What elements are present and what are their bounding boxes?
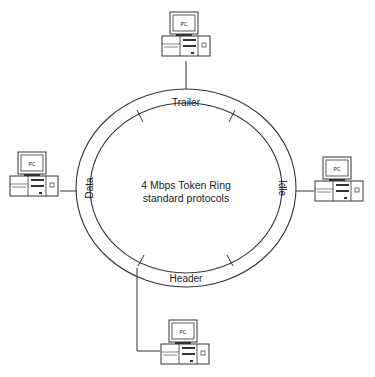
svg-text:PC: PC <box>180 329 187 335</box>
segment-label-trailer: Trailer <box>172 97 201 108</box>
svg-text:PC: PC <box>29 161 36 167</box>
segment-label-data: Data <box>84 177 95 199</box>
svg-text:PC: PC <box>181 21 188 27</box>
ring-title-line2: standard protocols <box>143 192 229 204</box>
segment-label-idle: Idle <box>277 180 288 197</box>
token-ring-diagram: PC PC PC PC Trailer Header Data Idle 4 M… <box>0 0 375 377</box>
pc-left: PC <box>10 152 58 196</box>
pc-top: PC <box>162 12 210 56</box>
segment-label-header: Header <box>170 273 203 284</box>
pc-right: PC <box>315 157 363 201</box>
svg-text:PC: PC <box>334 166 341 172</box>
pc-bottom: PC <box>161 320 209 364</box>
link-bottom <box>137 268 160 351</box>
ring-title-line1: 4 Mbps Token Ring <box>141 179 231 191</box>
